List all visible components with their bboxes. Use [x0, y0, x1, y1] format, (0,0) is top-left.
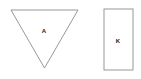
rectangle-label-k: K [116, 38, 120, 44]
triangle-label-a: A [42, 28, 46, 34]
triangle-shape-a [11, 10, 78, 68]
figure-canvas: A K [0, 0, 141, 79]
